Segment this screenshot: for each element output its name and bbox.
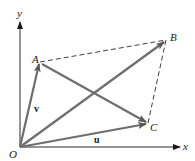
point-b-label: B — [170, 31, 177, 43]
vector-diagram: y x O A B C v u — [0, 0, 195, 161]
dashed-edge-a-b — [40, 40, 166, 62]
vector-u — [20, 124, 146, 147]
y-axis-label: y — [16, 7, 22, 19]
origin-label: O — [9, 148, 17, 160]
point-a-label: A — [31, 53, 39, 65]
vector-u-label: u — [94, 134, 100, 145]
vector-u-minus-v — [42, 64, 146, 122]
point-c-label: C — [150, 121, 158, 133]
vector-u-plus-v — [20, 42, 164, 147]
vector-v-label: v — [34, 103, 39, 114]
x-axis-label: x — [182, 140, 188, 152]
